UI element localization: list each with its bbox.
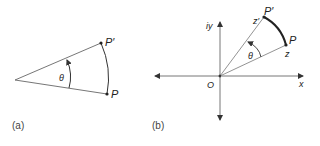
label-theta-b: θ xyxy=(248,51,253,62)
origin-point xyxy=(219,75,221,77)
label-theta-a: θ xyxy=(59,73,64,84)
caption-b: (b) xyxy=(152,121,164,131)
outer-arc xyxy=(101,43,109,94)
thick-arc xyxy=(264,17,286,45)
label-p-prime-b: P′ xyxy=(264,6,273,17)
label-origin: O xyxy=(207,80,214,91)
figure-a xyxy=(15,41,109,95)
label-z: z xyxy=(285,49,290,60)
point-p xyxy=(105,92,108,95)
label-z-prime: z′ xyxy=(253,16,259,27)
label-p-a: P xyxy=(111,89,118,100)
ray-to-p-prime xyxy=(15,43,101,80)
label-iy: iy xyxy=(206,21,213,32)
angle-arc-arrow xyxy=(67,60,71,88)
point-p xyxy=(284,43,287,46)
point-p-prime xyxy=(99,41,102,44)
caption-a: (a) xyxy=(12,121,24,131)
label-x: x xyxy=(299,79,304,90)
figure-b xyxy=(155,15,303,120)
label-p-b: P xyxy=(289,35,296,46)
ray-to-z xyxy=(220,45,286,76)
label-p-prime-a: P′ xyxy=(105,37,114,48)
